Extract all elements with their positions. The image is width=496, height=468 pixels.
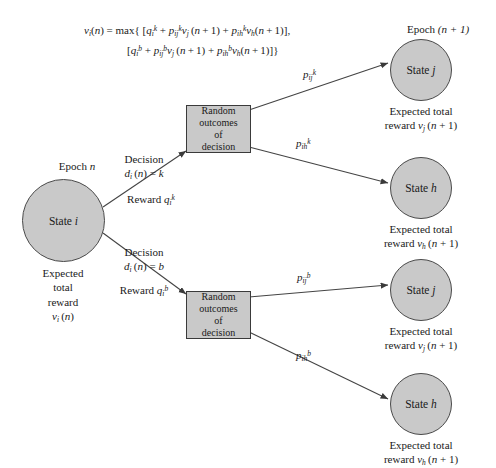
edge-random-k-to-state-j xyxy=(249,63,388,110)
decision-k-reward: Reward qik xyxy=(105,192,197,208)
state-j-top-caption: Expected total reward vj (n + 1) xyxy=(368,104,474,134)
state-node-h-upper[interactable]: State h xyxy=(390,157,452,219)
random-b-line4: decision xyxy=(202,327,235,339)
probability-label-p-ij-b: pijb xyxy=(297,271,310,285)
decision-k-label: Decision di (n) = k xyxy=(98,152,190,182)
random-k-line4: decision xyxy=(202,141,235,153)
state-h-upper-caption: Expected total reward vh (n + 1) xyxy=(368,222,474,252)
state-node-h-bottom-label: State h xyxy=(405,398,437,410)
state-node-i-label: State i xyxy=(49,215,78,227)
decision-b-reward: Reward qib xyxy=(94,283,194,299)
random-outcomes-box-k[interactable]: Random outcomes of decision xyxy=(186,105,251,153)
epoch-n-plus-1-label: Epoch (n + 1) xyxy=(383,22,493,36)
probability-label-p-ih-b: pihb xyxy=(296,349,311,363)
state-h-bottom-caption: Expected total reward vh (n + 1) xyxy=(368,438,474,468)
edge-random-b-to-state-j xyxy=(249,285,388,297)
decision-b-label: Decision di (n) = b xyxy=(98,245,190,275)
state-j-lower-caption: Expected total reward vj (n + 1) xyxy=(368,324,474,354)
state-node-j-lower[interactable]: State j xyxy=(390,259,452,321)
probability-label-p-ij-k: pijk xyxy=(303,68,316,82)
random-b-line3: of xyxy=(214,315,222,327)
state-node-j-top-label: State j xyxy=(406,64,435,76)
state-node-j-lower-label: State j xyxy=(406,284,435,296)
random-outcomes-box-b[interactable]: Random outcomes of decision xyxy=(186,291,251,339)
state-node-i[interactable]: State i xyxy=(22,179,105,262)
random-b-line1: Random xyxy=(202,291,236,303)
state-node-h-upper-label: State h xyxy=(405,182,437,194)
bellman-equation-line2: [qib + pijbvj (n + 1) + pihbvh(n + 1)]} xyxy=(127,42,278,60)
probability-label-p-ih-k: pihk xyxy=(296,137,311,151)
random-k-line1: Random xyxy=(202,105,236,117)
edge-random-k-to-state-h xyxy=(249,147,388,183)
random-b-line2: outcomes xyxy=(199,303,237,315)
random-k-line3: of xyxy=(214,129,222,141)
state-node-h-bottom[interactable]: State h xyxy=(390,373,452,435)
random-k-line2: outcomes xyxy=(199,117,237,129)
bellman-equation-line1: vi(n) = max{ [qik + pijkvj (n + 1) + pih… xyxy=(84,22,290,40)
state-node-j-top[interactable]: State j xyxy=(390,39,452,101)
